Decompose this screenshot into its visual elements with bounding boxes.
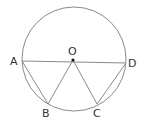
- segment-ab: [22, 61, 48, 104]
- label-d: D: [128, 57, 136, 70]
- label-c: C: [93, 107, 101, 119]
- label-b: B: [42, 107, 50, 119]
- center-point-dot: [71, 58, 74, 61]
- segment-oc: [73, 60, 97, 104]
- geometry-diagram: A O D B C: [0, 0, 144, 119]
- label-a: A: [10, 55, 18, 68]
- segment-cd: [97, 63, 126, 104]
- segment-ob: [48, 60, 73, 104]
- label-o: O: [68, 45, 77, 58]
